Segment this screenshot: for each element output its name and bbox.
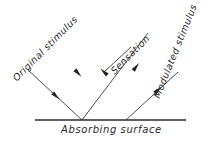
ray-diagram-canvas: Original stimulus Sensation Modulated st… [0, 0, 223, 144]
outgoing-mid-arrow-icon [132, 62, 141, 72]
incoming-lower-arrow-icon [73, 68, 83, 78]
label-absorbing-surface: Absorbing surface [61, 125, 162, 135]
